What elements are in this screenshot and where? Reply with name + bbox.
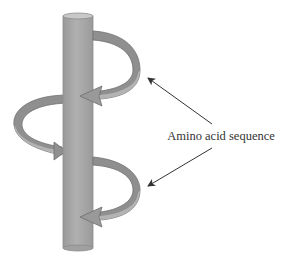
- helical-turn-arrow-2: [14, 95, 68, 160]
- amino-acid-sequence-label: Amino acid sequence: [160, 129, 282, 144]
- pointer-arrow-lower: [148, 148, 212, 186]
- pointer-arrow-upper: [148, 78, 212, 124]
